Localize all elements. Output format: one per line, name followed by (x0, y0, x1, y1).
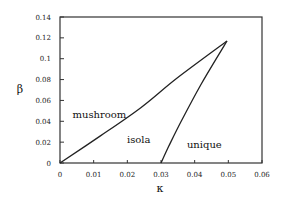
y-axis-label: β (17, 83, 23, 96)
region-labels: mushroomisolaunique (72, 109, 221, 150)
region-label-mushroom: mushroom (72, 109, 126, 120)
plot-frame (60, 17, 262, 163)
x-tick-label: 0.04 (187, 171, 203, 179)
y-tick-label: 0 (47, 160, 51, 168)
y-tick-label: 0.04 (35, 118, 51, 126)
x-tick-label: 0.06 (254, 171, 270, 179)
region-label-isola: isola (127, 134, 151, 145)
bifurcation-chart: 00.010.020.030.040.050.06 00.020.040.060… (0, 0, 288, 201)
y-tick-label: 0.02 (35, 139, 51, 147)
region-label-unique: unique (187, 139, 222, 150)
axis-ticks (60, 17, 262, 163)
x-tick-labels: 00.010.020.030.040.050.06 (58, 171, 271, 179)
y-tick-label: 0.08 (35, 76, 51, 84)
x-tick-label: 0.05 (221, 171, 237, 179)
y-tick-label: 0.14 (35, 14, 51, 22)
plot-border (60, 17, 262, 163)
y-tick-label: 0.12 (35, 34, 51, 42)
x-axis-label: κ (157, 182, 164, 195)
y-tick-label: 0.06 (35, 97, 51, 105)
x-tick-label: 0.03 (153, 171, 169, 179)
x-tick-label: 0.02 (120, 171, 136, 179)
y-tick-labels: 00.020.040.060.080.10.120.14 (35, 14, 51, 168)
y-tick-label: 0.1 (40, 55, 51, 63)
x-tick-label: 0 (58, 171, 62, 179)
x-tick-label: 0.01 (86, 171, 102, 179)
